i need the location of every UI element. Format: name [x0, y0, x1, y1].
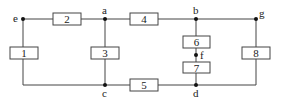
node-f: [194, 53, 198, 57]
element-2-label: 2: [64, 13, 70, 25]
node-b: [194, 17, 198, 21]
node-a-label: a: [102, 4, 107, 16]
element-1: 1: [10, 47, 38, 59]
element-5: 5: [130, 79, 158, 91]
node-a: [103, 17, 107, 21]
element-4: 4: [130, 13, 158, 25]
element-7: 7: [183, 62, 210, 74]
wires: [23, 19, 256, 85]
node-d-label: d: [193, 87, 199, 99]
element-2: 2: [53, 13, 81, 25]
element-3: 3: [91, 47, 119, 59]
element-8-label: 8: [253, 47, 259, 59]
element-6-label: 6: [194, 36, 200, 48]
node-c-label: c: [102, 87, 107, 99]
element-4-label: 4: [141, 13, 147, 25]
element-1-label: 1: [21, 47, 27, 59]
node-b-label: b: [193, 4, 199, 16]
circuit-diagram: 1 2 3 4 5 6 7 8 e a b g c d f: [0, 0, 282, 105]
element-6: 6: [183, 36, 210, 48]
node-e: [21, 17, 25, 21]
node-g-label: g: [259, 7, 265, 19]
element-7-label: 7: [194, 62, 200, 74]
node-f-label: f: [200, 49, 204, 61]
element-8: 8: [242, 47, 270, 59]
element-3-label: 3: [102, 47, 108, 59]
element-5-label: 5: [141, 79, 147, 91]
node-g: [254, 17, 258, 21]
node-e-label: e: [13, 12, 18, 24]
